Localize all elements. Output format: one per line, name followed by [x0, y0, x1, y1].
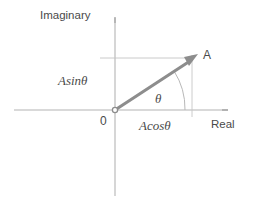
- angle-theta-label: θ: [155, 92, 161, 105]
- vector-shaft: [115, 61, 190, 110]
- angle-arc: [174, 71, 185, 110]
- imaginary-axis-label: Imaginary: [40, 10, 91, 22]
- phasor-diagram-svg: [0, 0, 253, 204]
- origin-label: 0: [100, 115, 107, 127]
- real-axis-label: Real: [211, 119, 235, 131]
- vertical-component-label: Asinθ: [58, 74, 88, 87]
- horizontal-component-label: Acosθ: [139, 119, 171, 132]
- figure-canvas: Imaginary Real Asinθ Acosθ A 0 θ: [0, 0, 253, 204]
- origin-marker: [112, 107, 117, 112]
- point-a-label: A: [203, 49, 211, 61]
